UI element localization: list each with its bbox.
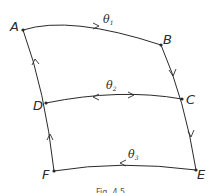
label-d: D: [33, 98, 43, 113]
arrow-mid-left-icon: [93, 94, 99, 100]
label-b: B: [163, 32, 172, 47]
curve-b-e: [161, 45, 196, 170]
figure-caption: Fig. 4.5: [96, 188, 125, 193]
theta-top-label: θ1: [103, 13, 113, 26]
label-f: F: [42, 167, 50, 182]
curve-a-b: [23, 25, 161, 45]
point-d: [44, 101, 47, 104]
arrow-mid-right-icon: [128, 92, 134, 98]
label-c: C: [186, 92, 196, 107]
point-f: [52, 169, 55, 172]
theta-bot-label: θ3: [128, 148, 139, 161]
curve-d-c: [46, 94, 182, 103]
label-e: E: [197, 167, 206, 182]
curve-e-f: [54, 165, 196, 171]
point-a: [21, 28, 24, 31]
arrow-b-c-icon: [169, 69, 176, 76]
theta-mid-label: θ2: [106, 79, 117, 92]
label-a: A: [9, 19, 19, 34]
isotherm-cycle-diagram: A B C D E F θ1 θ2 θ3 Fig. 4.5: [0, 0, 218, 193]
point-c: [180, 97, 183, 100]
